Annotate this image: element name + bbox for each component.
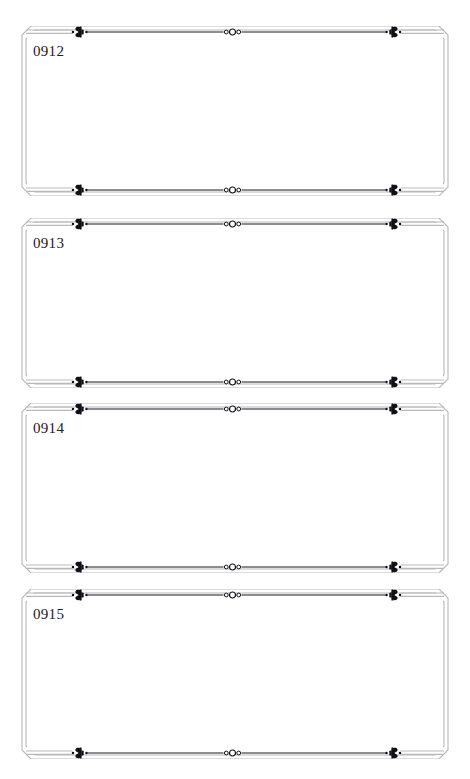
ornamental-frame-card[interactable]: 0915 [0, 589, 470, 759]
frame-interior [27, 31, 443, 191]
frame-label: 0914 [33, 421, 64, 436]
ornamental-frame-card[interactable]: 0912 [0, 26, 470, 196]
frame-label: 0913 [33, 236, 64, 251]
frame-interior [27, 594, 443, 754]
frame-label: 0912 [33, 44, 64, 59]
frame-label: 0915 [33, 607, 64, 622]
ornamental-frame-card[interactable]: 0914 [0, 403, 470, 573]
ornamental-frame-card[interactable]: 0913 [0, 218, 470, 388]
frame-interior [27, 223, 443, 383]
page-root: 0912 [0, 0, 470, 779]
frame-interior [27, 408, 443, 568]
